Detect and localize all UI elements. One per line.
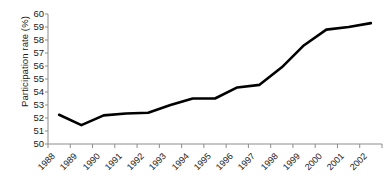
- plot-area: [0, 0, 390, 194]
- axes: [48, 14, 382, 144]
- series-line-participation-rate: [59, 23, 371, 125]
- participation-rate-line-chart: Participation rate (%) 60595857565554535…: [0, 0, 390, 194]
- x-axis-ticks: [48, 144, 382, 148]
